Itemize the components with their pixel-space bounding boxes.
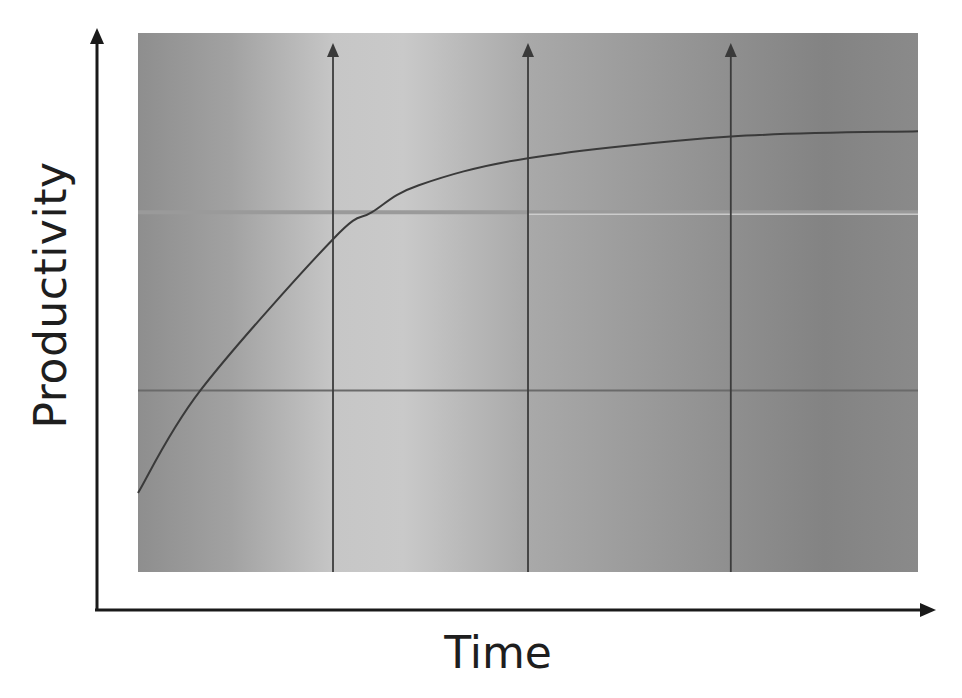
- y-axis: [90, 28, 104, 610]
- x-axis-arrow-icon: [920, 603, 936, 617]
- productivity-time-chart: Productivity Time: [0, 0, 962, 698]
- x-axis-label: Time: [444, 627, 552, 678]
- y-axis-arrow-icon: [90, 28, 104, 44]
- x-axis: [95, 603, 936, 617]
- chart-canvas: [0, 0, 962, 698]
- y-axis-label: Productivity: [25, 162, 76, 429]
